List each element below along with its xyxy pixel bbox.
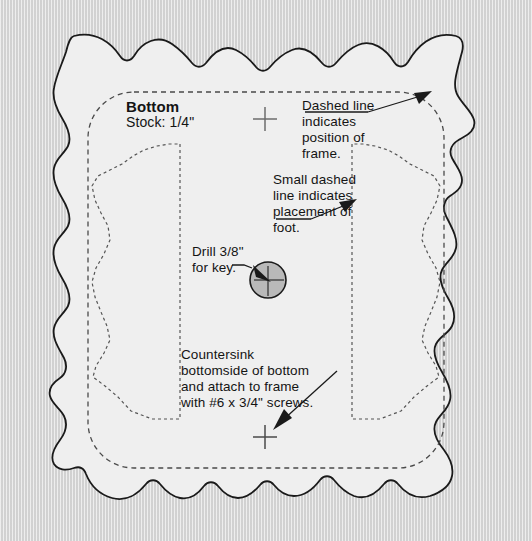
annotation-foot-note: Small dashed line indicates placement of… bbox=[273, 172, 356, 236]
annotation-countersink-note: Countersink bottomside of bottom and att… bbox=[181, 347, 313, 411]
stock-thickness-label: Stock: 1/4" bbox=[126, 114, 194, 131]
bottom-panel-drawing bbox=[0, 0, 532, 541]
annotation-drill-note: Drill 3/8" for key. bbox=[192, 244, 244, 276]
plan-page: Bottom Stock: 1/4" Dashed line indicates… bbox=[0, 0, 532, 541]
annotation-frame-note: Dashed line indicates position of frame. bbox=[302, 98, 374, 162]
